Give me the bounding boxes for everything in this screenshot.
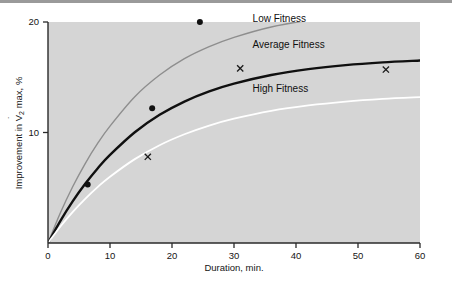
y-axis-title-lead: Improvement in V [13,114,24,189]
y-axis-title-tail: max, % [13,76,24,111]
data-point-circle [197,19,203,25]
x-tick-label: 20 [167,250,178,261]
chart-figure: 01020304050601020 Low FitnessAverage Fit… [0,0,452,285]
series-label-high-fitness: High Fitness [253,83,309,94]
x-tick-label: 10 [105,250,116,261]
x-tick-label: 60 [415,250,426,261]
y-axis-title-text: Improvement in V2 max, % [13,76,25,189]
series-label-average-fitness: Average Fitness [253,39,325,50]
data-point-circle [149,105,155,111]
x-tick-label: 50 [353,250,364,261]
y-axis-title-vdot: ˙ [6,116,17,119]
data-point-circle [85,181,91,187]
y-axis-title: Improvement in V2 max, % ˙ [6,76,25,189]
plot-area-background [48,22,420,243]
x-tick-label: 0 [45,250,50,261]
x-tick-label: 30 [229,250,240,261]
x-axis-title: Duration, min. [204,262,263,273]
y-tick-label: 10 [28,127,39,138]
x-tick-label: 40 [291,250,302,261]
series-label-low-fitness: Low Fitness [253,13,306,24]
chart-canvas: 01020304050601020 Low FitnessAverage Fit… [0,0,452,285]
y-tick-label: 20 [28,16,39,27]
